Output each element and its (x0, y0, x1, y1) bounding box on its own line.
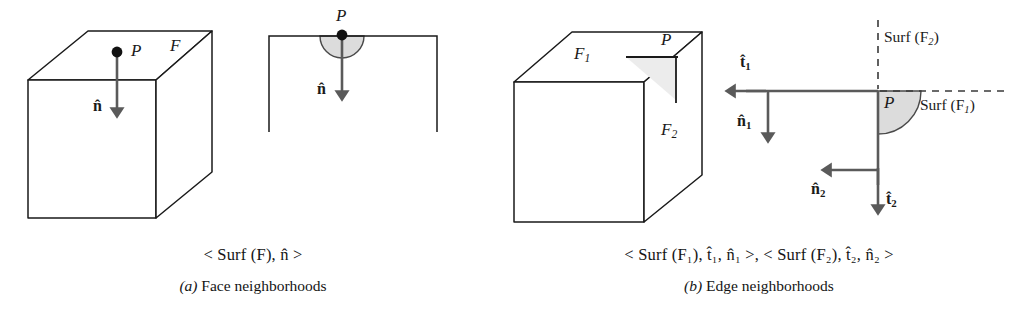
label-vector-n2-sub: 2 (820, 187, 825, 199)
label-surf-f2-paren: ) (934, 28, 939, 45)
cube2-front-face (514, 82, 644, 222)
label-vector-n2-glyph: n̂ (811, 180, 820, 197)
label-vector-t2: t̂2 (886, 190, 897, 209)
label-face-f: F (170, 36, 180, 56)
label-vector-n1: n̂1 (737, 112, 751, 131)
caption-formula-a-text: < Surf (F), n̂ > (203, 245, 302, 264)
panel-a-artwork (0, 0, 506, 240)
label-vector-n1-sub: 1 (746, 119, 751, 131)
detail-point-p-marker (337, 30, 348, 41)
caption-formula-a: < Surf (F), n̂ > (0, 245, 506, 265)
label-vector-n1-glyph: n̂ (737, 112, 746, 129)
label-vector-t2-sub: 2 (891, 197, 896, 209)
label-face-f2: F2 (661, 120, 677, 141)
label-face-f1: F1 (574, 44, 590, 65)
face-neighborhood-detail (269, 30, 437, 132)
label-surf-f1-paren: ) (970, 96, 975, 113)
label-face-f2-glyph: F (661, 120, 671, 139)
label-vector-t1-sub: 1 (745, 60, 750, 72)
label-point-p-detail: P (336, 6, 346, 26)
label-surf-f1-text: Surf (F (920, 96, 964, 113)
cube-face-neighborhood (28, 31, 212, 218)
panel-face-neighborhoods: P F n̂ P n̂ < Surf (F), n̂ > (a) Face ne… (0, 0, 506, 317)
label-normal-n-detail: n̂ (317, 80, 326, 98)
caption-formula-b-text: < Surf (F₁), t̂₁, n̂₁ >, < Surf (F₂), t̂… (624, 245, 893, 264)
label-point-p-cube2: P (661, 30, 671, 50)
figure-container: P F n̂ P n̂ < Surf (F), n̂ > (a) Face ne… (0, 0, 1012, 317)
label-surf-f2: Surf (F2) (884, 28, 939, 47)
caption-label-b-prefix: (b) (684, 277, 702, 294)
label-face-f1-glyph: F (574, 44, 584, 63)
panel-edge-neighborhoods: F1 P F2 Surf (F2) P Surf (F1) t̂1 n̂1 n̂… (506, 0, 1012, 317)
caption-label-a: (a) Face neighborhoods (0, 277, 506, 295)
cube-front-face (28, 80, 156, 218)
caption-label-b-text: Edge neighborhoods (706, 277, 834, 294)
label-point-p-cube: P (131, 41, 141, 61)
label-surf-f1: Surf (F1) (920, 96, 975, 115)
caption-label-a-prefix: (a) (179, 277, 197, 294)
label-surf-f2-text: Surf (F (884, 28, 928, 45)
label-vector-t1: t̂1 (740, 53, 751, 72)
label-vector-n2: n̂2 (811, 180, 825, 199)
caption-label-b: (b) Edge neighborhoods (506, 277, 1012, 295)
label-face-f2-sub: 2 (671, 128, 677, 141)
edge-neighborhood-detail (728, 20, 1004, 212)
point-p-marker (112, 47, 123, 58)
label-face-f1-sub: 1 (584, 52, 590, 65)
caption-formula-b: < Surf (F₁), t̂₁, n̂₁ >, < Surf (F₂), t̂… (506, 245, 1012, 265)
label-normal-n-cube: n̂ (93, 97, 102, 115)
caption-label-a-text: Face neighborhoods (201, 277, 326, 294)
label-point-p-detail2: P (884, 93, 894, 113)
